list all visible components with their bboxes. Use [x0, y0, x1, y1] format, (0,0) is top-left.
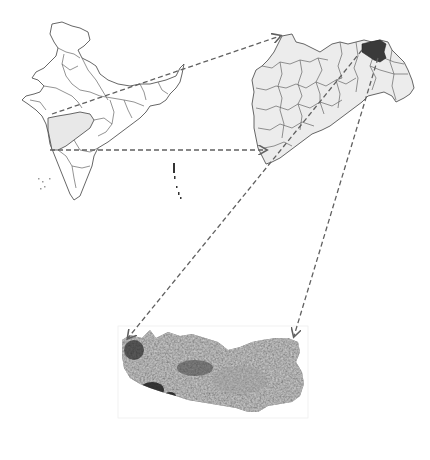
india-map [22, 22, 184, 200]
lakshadweep-islands [38, 178, 51, 190]
dark-patch [140, 382, 164, 398]
state-outline [252, 34, 414, 164]
maharashtra-map [252, 34, 414, 164]
district-satellite-image [118, 326, 308, 418]
india-outline [22, 22, 184, 200]
andaman-islands [173, 163, 182, 199]
study-area-figure [0, 0, 430, 460]
